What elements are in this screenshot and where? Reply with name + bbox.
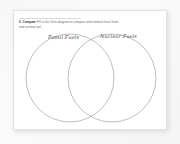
venn-label-right: Nuclear Fuels — [100, 33, 137, 39]
venn-circle-right[interactable] — [68, 34, 156, 122]
worksheet-page: 6. Compare Fill in the Venn diagram to c… — [13, 10, 167, 130]
venn-circle-left[interactable] — [26, 34, 114, 122]
venn-diagram — [14, 11, 167, 130]
screenshot-root: 6. Compare Fill in the Venn diagram to c… — [0, 0, 180, 144]
venn-label-left: Fossil Fuels — [48, 34, 79, 40]
